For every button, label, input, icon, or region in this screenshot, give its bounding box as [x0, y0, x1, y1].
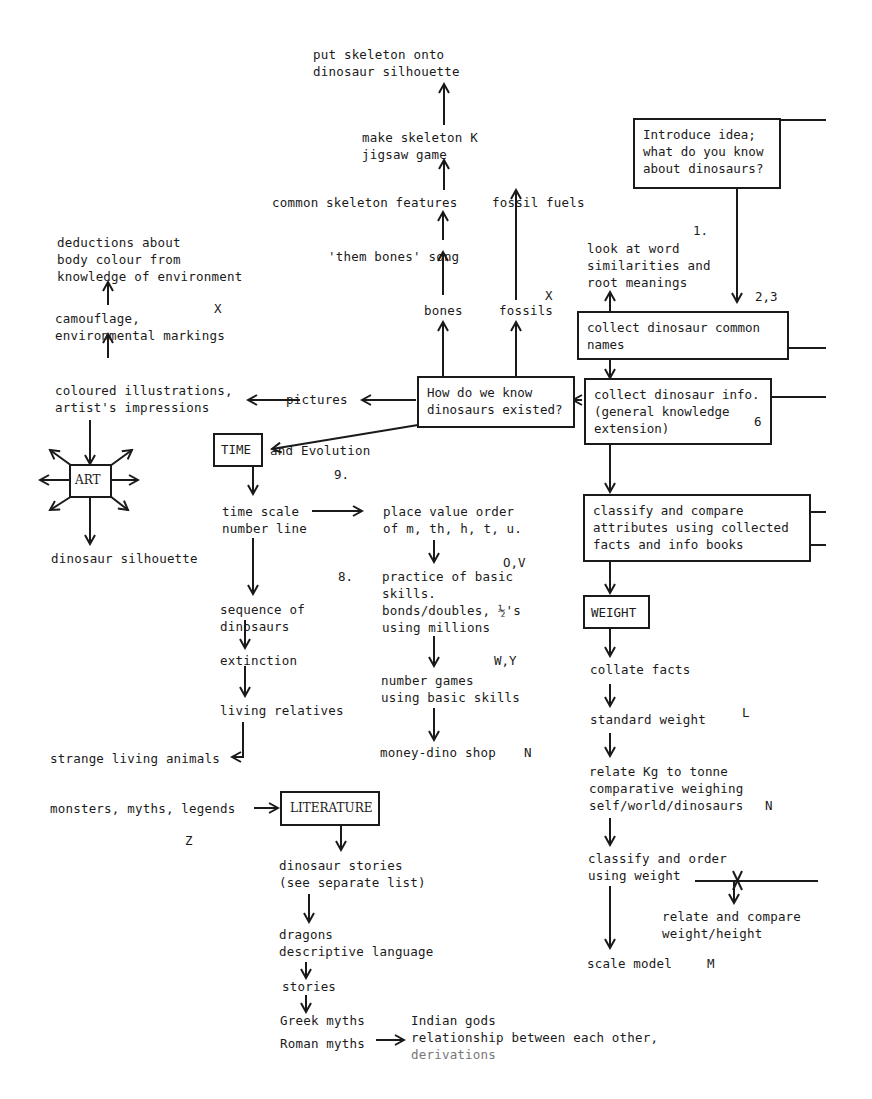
node-dino-stories: dinosaur stories (see separate list): [279, 857, 426, 891]
node-stories: stories: [282, 978, 336, 995]
node-fossils: fossils: [499, 302, 553, 319]
node-time-scale: time scale number line: [222, 503, 307, 537]
node-practice-skills: practice of basic skills. bonds/doubles,…: [382, 568, 521, 636]
node-standard-weight: standard weight: [590, 711, 706, 728]
node-dinosaur-silhouette: dinosaur silhouette: [51, 550, 198, 567]
node-bones: bones: [424, 302, 463, 319]
node-common-skeleton: common skeleton features: [272, 194, 457, 211]
node-extinction: extinction: [220, 652, 297, 669]
node-pictures: pictures: [286, 391, 348, 408]
code-number-games: W,Y: [494, 652, 517, 669]
box-classify-compare: classify and compare attributes using co…: [583, 494, 811, 562]
box-weight: WEIGHT: [583, 595, 650, 629]
node-classify-order: classify and order using weight: [588, 850, 727, 884]
box-literature: LITERATURE: [280, 791, 380, 826]
node-coloured-illustrations: coloured illustrations, artist's impress…: [55, 382, 233, 416]
code-scale-model: M: [707, 955, 715, 972]
node-make-skeleton: make skeleton K jigsaw game: [362, 129, 478, 163]
node-living-relatives: living relatives: [220, 702, 344, 719]
node-look-at-word: look at word similarities and root meani…: [587, 240, 711, 291]
node-scale-model: scale model: [587, 955, 672, 972]
node-place-value: place value order of m, th, h, t, u.: [383, 503, 522, 537]
box-introduce-idea: Introduce idea; what do you know about d…: [633, 118, 781, 189]
node-camouflage: camouflage, environmental markings: [55, 310, 225, 344]
node-deductions: deductions about body colour from knowle…: [57, 234, 242, 285]
code-standard-weight: L: [742, 704, 750, 721]
box-collect-info: collect dinosaur info. (general knowledg…: [584, 378, 772, 445]
node-strange-animals: strange living animals: [50, 750, 220, 767]
step-8: 8.: [338, 568, 353, 585]
node-put-skeleton: put skeleton onto dinosaur silhouette: [313, 46, 460, 80]
node-number-games: number games using basic skills: [381, 672, 520, 706]
node-indian-gods: Indian gods relationship between each ot…: [411, 1012, 658, 1046]
node-money-shop: money-dino shop: [380, 744, 496, 761]
node-sequence: sequence of dinosaurs: [220, 601, 305, 635]
node-roman-myths: Roman myths: [280, 1035, 365, 1052]
node-relate-kg: relate Kg to tonne comparative weighing …: [589, 763, 744, 814]
box-art: ART: [69, 464, 112, 498]
node-derivations: derivations: [411, 1046, 496, 1063]
box-time: TIME: [213, 433, 263, 467]
node-and-evolution: and Evolution: [270, 442, 370, 459]
node-dragons: dragons descriptive language: [279, 926, 434, 960]
node-relate-compare: relate and compare weight/height: [662, 908, 801, 942]
code-literature: Z: [185, 832, 193, 849]
code-fossils: X: [545, 287, 553, 304]
node-collate-facts: collate facts: [590, 661, 690, 678]
node-them-bones: 'them bones' song: [328, 248, 459, 265]
node-monsters: monsters, myths, legends: [50, 800, 235, 817]
step-2-3: 2,3: [755, 288, 778, 305]
step-1: 1.: [693, 222, 708, 239]
code-collect-info: 6: [754, 413, 762, 430]
code-money-shop: N: [524, 744, 532, 761]
box-how-do-we-know: How do we know dinosaurs existed?: [417, 376, 575, 428]
box-collect-names: collect dinosaur common names: [577, 311, 789, 360]
node-greek-myths: Greek myths: [280, 1012, 365, 1029]
step-9: 9.: [334, 466, 349, 483]
node-fossil-fuels: fossil fuels: [492, 194, 585, 211]
code-relate-kg: N: [765, 797, 773, 814]
